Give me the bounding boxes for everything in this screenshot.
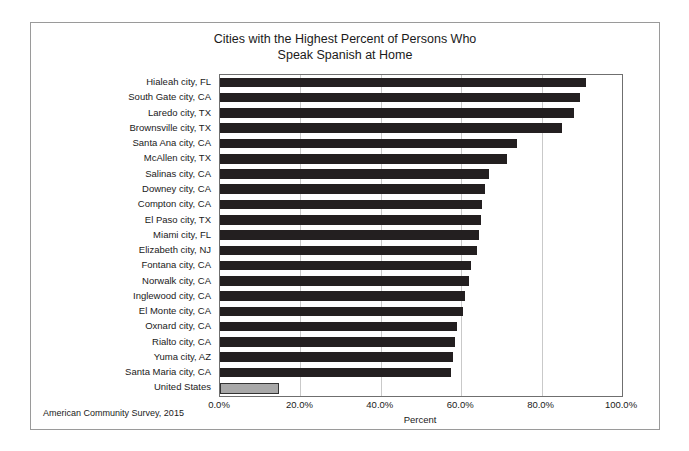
bar[interactable] bbox=[220, 169, 489, 179]
category-label: Norwalk city, CA bbox=[142, 275, 211, 286]
bar-row bbox=[220, 273, 622, 288]
category-label-row: Downey city, CA bbox=[31, 181, 216, 196]
category-label: Miami city, FL bbox=[153, 229, 211, 240]
bar-row bbox=[220, 212, 622, 227]
category-label: Salinas city, CA bbox=[145, 168, 211, 179]
category-label: Elizabeth city, NJ bbox=[139, 244, 211, 255]
bar-row bbox=[220, 304, 622, 319]
x-tick-label: 0.0% bbox=[208, 399, 230, 410]
category-label: Compton city, CA bbox=[138, 198, 211, 209]
x-tick-label: 100.0% bbox=[605, 399, 637, 410]
bar-row bbox=[220, 121, 622, 136]
category-label-row: Brownsville city, TX bbox=[31, 120, 216, 135]
category-label-row: United States bbox=[31, 379, 216, 394]
x-tick-label: 40.0% bbox=[366, 399, 393, 410]
category-label: El Monte city, CA bbox=[139, 305, 211, 316]
category-label-row: South Gate city, CA bbox=[31, 89, 216, 104]
bar[interactable] bbox=[220, 337, 455, 347]
bar[interactable] bbox=[220, 261, 471, 271]
category-label-row: Santa Ana city, CA bbox=[31, 135, 216, 150]
category-label: South Gate city, CA bbox=[128, 91, 211, 102]
category-label-row: Compton city, CA bbox=[31, 196, 216, 211]
plot-area bbox=[219, 74, 623, 397]
bar[interactable] bbox=[220, 352, 453, 362]
category-label-row: Laredo city, TX bbox=[31, 105, 216, 120]
category-label-row: Salinas city, CA bbox=[31, 166, 216, 181]
category-label: Laredo city, TX bbox=[148, 107, 211, 118]
bar-row bbox=[220, 182, 622, 197]
category-label: Rialto city, CA bbox=[152, 336, 211, 347]
bar[interactable] bbox=[220, 307, 463, 317]
bar[interactable] bbox=[220, 78, 586, 88]
category-label: Downey city, CA bbox=[142, 183, 211, 194]
bar-row bbox=[220, 289, 622, 304]
category-label-row: Yuma city, AZ bbox=[31, 349, 216, 364]
bar[interactable] bbox=[220, 139, 517, 149]
category-label-row: Fontana city, CA bbox=[31, 257, 216, 272]
category-label: Hialeah city, FL bbox=[146, 76, 211, 87]
bar[interactable] bbox=[220, 230, 479, 240]
category-label: Santa Maria city, CA bbox=[125, 366, 211, 377]
source-note: American Community Survey, 2015 bbox=[43, 408, 184, 418]
category-label-row: McAllen city, TX bbox=[31, 150, 216, 165]
chart-title-line-2: Speak Spanish at Home bbox=[31, 47, 659, 63]
category-label: McAllen city, TX bbox=[144, 152, 211, 163]
bar[interactable] bbox=[220, 200, 482, 210]
chart-title: Cities with the Highest Percent of Perso… bbox=[31, 31, 659, 63]
bar[interactable] bbox=[220, 291, 465, 301]
category-label-row: Oxnard city, CA bbox=[31, 318, 216, 333]
x-axis-title: Percent bbox=[219, 414, 621, 425]
category-label-row: Norwalk city, CA bbox=[31, 272, 216, 287]
bar[interactable] bbox=[220, 108, 574, 118]
category-label: United States bbox=[154, 381, 211, 392]
category-label-row: Elizabeth city, NJ bbox=[31, 242, 216, 257]
bar[interactable] bbox=[220, 154, 507, 164]
bar[interactable] bbox=[220, 322, 457, 332]
category-label-row: Hialeah city, FL bbox=[31, 74, 216, 89]
bar[interactable] bbox=[220, 184, 485, 194]
bar-row bbox=[220, 258, 622, 273]
bar[interactable] bbox=[220, 246, 477, 256]
category-label: Santa Ana city, CA bbox=[132, 137, 211, 148]
bar-row bbox=[220, 350, 622, 365]
bar-row bbox=[220, 75, 622, 90]
bar-row bbox=[220, 380, 622, 395]
category-label: Inglewood city, CA bbox=[133, 290, 211, 301]
x-tick-label: 20.0% bbox=[286, 399, 313, 410]
category-label-row: El Paso city, TX bbox=[31, 211, 216, 226]
x-tick-label: 80.0% bbox=[527, 399, 554, 410]
bar[interactable] bbox=[220, 276, 469, 286]
bar[interactable] bbox=[220, 215, 481, 225]
category-label-row: El Monte city, CA bbox=[31, 303, 216, 318]
category-label-row: Miami city, FL bbox=[31, 227, 216, 242]
category-label-row: Inglewood city, CA bbox=[31, 288, 216, 303]
bar-row bbox=[220, 335, 622, 350]
x-axis-tick-labels: 0.0%20.0%40.0%60.0%80.0%100.0% bbox=[219, 399, 621, 413]
bar-row bbox=[220, 90, 622, 105]
bar[interactable] bbox=[220, 93, 580, 103]
bar-row bbox=[220, 151, 622, 166]
category-label: El Paso city, TX bbox=[145, 214, 211, 225]
category-label-row: Santa Maria city, CA bbox=[31, 364, 216, 379]
bar-rows bbox=[220, 75, 622, 396]
x-tick-label: 60.0% bbox=[447, 399, 474, 410]
chart-figure: Cities with the Highest Percent of Perso… bbox=[30, 22, 660, 430]
bar-row bbox=[220, 197, 622, 212]
category-label: Yuma city, AZ bbox=[154, 351, 211, 362]
category-label-row: Rialto city, CA bbox=[31, 334, 216, 349]
bar-row bbox=[220, 365, 622, 380]
bar-row bbox=[220, 136, 622, 151]
category-label: Oxnard city, CA bbox=[145, 320, 211, 331]
bar[interactable] bbox=[220, 383, 279, 394]
category-label: Brownsville city, TX bbox=[130, 122, 211, 133]
bar-row bbox=[220, 106, 622, 121]
chart-title-line-1: Cities with the Highest Percent of Perso… bbox=[31, 31, 659, 47]
bar[interactable] bbox=[220, 368, 451, 378]
bar-row bbox=[220, 167, 622, 182]
bar-row bbox=[220, 228, 622, 243]
bar[interactable] bbox=[220, 123, 562, 133]
bar-row bbox=[220, 319, 622, 334]
category-label: Fontana city, CA bbox=[141, 259, 211, 270]
category-axis-labels: Hialeah city, FLSouth Gate city, CALared… bbox=[31, 74, 216, 395]
bar-row bbox=[220, 243, 622, 258]
